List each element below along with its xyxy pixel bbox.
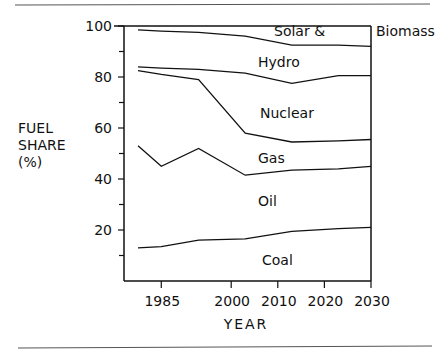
boundary-line: [138, 30, 371, 47]
boundary-line: [138, 71, 371, 142]
chart-figure: 2040608010019852000201020202030YEARFUELS…: [0, 0, 447, 353]
x-tick-label: 2020: [308, 293, 344, 309]
y-tick-label: 40: [94, 171, 112, 187]
y-tick-label: 60: [94, 120, 112, 136]
x-tick-label: 1985: [144, 293, 180, 309]
bottom-rule: [18, 346, 432, 348]
band-label: Nuclear: [260, 105, 314, 121]
y-axis-label: (%): [18, 154, 42, 170]
band-label: Coal: [262, 252, 293, 268]
y-tick-label: 100: [85, 18, 112, 34]
boundary-line: [138, 67, 371, 84]
x-axis-label: YEAR: [223, 316, 269, 332]
boundary-line: [138, 146, 371, 175]
y-axis-label: FUEL: [18, 120, 53, 136]
fuel-share-chart: 2040608010019852000201020202030YEARFUELS…: [0, 0, 447, 353]
band-label: Oil: [258, 193, 277, 209]
boundary-line: [138, 227, 371, 247]
x-tick-label: 2000: [214, 293, 250, 309]
band-label: Biomass: [376, 23, 435, 39]
y-tick-label: 20: [94, 222, 112, 238]
band-label: Solar &: [274, 23, 325, 39]
x-tick-label: 2010: [261, 293, 297, 309]
band-label: Hydro: [258, 54, 300, 70]
band-label: Gas: [258, 150, 285, 166]
y-tick-label: 80: [94, 69, 112, 85]
x-tick-label: 2030: [354, 293, 390, 309]
top-rule: [15, 4, 430, 5]
y-axis-label: SHARE: [18, 137, 66, 153]
